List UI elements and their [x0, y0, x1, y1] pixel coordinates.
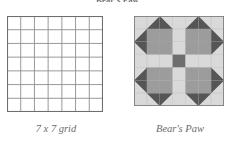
quilt-cell [173, 42, 186, 55]
quilt-cell-fill [173, 16, 186, 29]
quilt-cell-fill [211, 93, 224, 106]
quilt-cell [173, 16, 186, 29]
bears-paw-quilt-svg [134, 16, 224, 106]
quilt-cell [185, 42, 198, 55]
quilt-cell [147, 29, 160, 42]
quilt-cell [147, 67, 160, 80]
empty-grid-svg [7, 16, 103, 112]
quilt-cell [134, 80, 147, 93]
quilt-cell [147, 42, 160, 55]
quilt-cell-fill [147, 29, 160, 42]
quilt-cell [134, 67, 147, 80]
quilt-cell [211, 16, 224, 29]
quilt-cell-fill [134, 55, 147, 68]
quilt-cell [160, 55, 173, 68]
quilt-cell [185, 93, 198, 106]
quilt-cell [173, 93, 186, 106]
quilt-cell [173, 67, 186, 80]
quilt-cell [198, 80, 211, 93]
quilt-cell [173, 80, 186, 93]
quilt-cell [198, 16, 211, 29]
quilt-cell [198, 93, 211, 106]
quilt-cell [198, 42, 211, 55]
quilt-cell-fill [198, 67, 211, 80]
quilt-cell [211, 93, 224, 106]
quilt-cell [211, 42, 224, 55]
quilt-cell-fill [173, 55, 186, 68]
quilt-cell-fill [160, 42, 173, 55]
quilt-cell [185, 80, 198, 93]
quilt-cell [185, 67, 198, 80]
quilt-cell [185, 55, 198, 68]
quilt-cell [147, 16, 160, 29]
quilt-cell-fill [185, 67, 198, 80]
quilt-cell [211, 80, 224, 93]
quilt-cell-fill [160, 29, 173, 42]
quilt-cell [198, 67, 211, 80]
quilt-cell-fill [147, 42, 160, 55]
quilt-cell [198, 55, 211, 68]
quilt-cell [134, 16, 147, 29]
quilt-cell-fill [147, 80, 160, 93]
quilt-cell [134, 42, 147, 55]
quilt-cell-fill [185, 29, 198, 42]
caption-empty-grid: 7 x 7 grid [0, 123, 112, 134]
quilt-cell-fill [173, 29, 186, 42]
quilt-cell [185, 16, 198, 29]
quilt-cell [160, 67, 173, 80]
caption-quilt-block: Bear's Paw [124, 123, 235, 134]
quilt-cell-fill [173, 80, 186, 93]
quilt-cell [147, 80, 160, 93]
quilt-cell-fill [147, 67, 160, 80]
quilt-cell [198, 29, 211, 42]
quilt-cell-fill [211, 16, 224, 29]
quilt-cell [211, 29, 224, 42]
quilt-cell-fill [198, 42, 211, 55]
quilt-cell-fill [173, 93, 186, 106]
quilt-cell-fill [185, 80, 198, 93]
quilt-cell-fill [160, 55, 173, 68]
quilt-cell [160, 93, 173, 106]
quilt-cell [173, 29, 186, 42]
quilt-cell [160, 29, 173, 42]
quilt-cell-fill [160, 80, 173, 93]
quilt-cell-fill [198, 29, 211, 42]
quilt-cell-fill [198, 80, 211, 93]
quilt-cell [160, 80, 173, 93]
panel-quilt-block [134, 16, 224, 106]
quilt-cell [173, 55, 186, 68]
quilt-cell-fill [134, 16, 147, 29]
quilt-cell [160, 42, 173, 55]
quilt-cell [147, 93, 160, 106]
figure-container: Bear's Paw 7 x 7 grid Bear's Paw [0, 0, 235, 144]
quilt-cell [134, 55, 147, 68]
quilt-cell-fill [173, 67, 186, 80]
quilt-cell-fill [185, 55, 198, 68]
figure-title: Bear's Paw [0, 0, 235, 2]
quilt-cell [160, 16, 173, 29]
quilt-cell-fill [198, 55, 211, 68]
quilt-cell-fill [134, 93, 147, 106]
quilt-cell [134, 29, 147, 42]
quilt-cell [147, 55, 160, 68]
quilt-cell-fill [211, 55, 224, 68]
quilt-cell [134, 93, 147, 106]
quilt-cell [211, 55, 224, 68]
quilt-cell-fill [173, 42, 186, 55]
panel-empty-grid [7, 16, 103, 112]
quilt-cell-fill [160, 67, 173, 80]
quilt-cell [211, 67, 224, 80]
quilt-cell-fill [185, 42, 198, 55]
quilt-cell [185, 29, 198, 42]
quilt-cell-fill [147, 55, 160, 68]
grid-background [8, 17, 103, 112]
